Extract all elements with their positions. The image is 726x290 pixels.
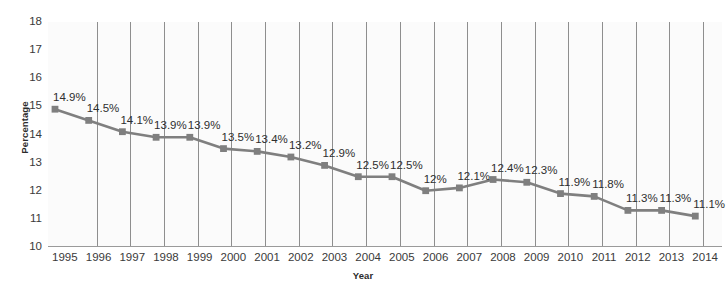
data-point-marker [52, 106, 59, 113]
data-point-marker [85, 117, 92, 124]
data-point-label: 13.9% [188, 120, 221, 132]
data-point-label: 12.4% [491, 163, 524, 175]
data-point-label: 11.3% [626, 193, 658, 205]
data-point-marker [658, 207, 665, 214]
data-point-label: 12.5% [390, 160, 423, 172]
line-chart: Percentage 181716151413121110 14.9%14.5%… [0, 0, 726, 290]
data-point-label: 12.9% [323, 148, 356, 160]
data-point-label: 11.1% [693, 199, 725, 211]
data-point-label: 13.2% [289, 140, 322, 152]
x-axis-title: Year [0, 270, 726, 281]
data-point-label: 14.1% [120, 115, 153, 127]
y-tick-label: 10 [20, 241, 42, 253]
data-point-marker [119, 128, 126, 135]
data-point-marker [422, 187, 429, 194]
data-point-marker [186, 134, 193, 141]
y-tick-label: 17 [20, 44, 42, 56]
y-tick-label: 16 [20, 72, 42, 84]
data-point-marker [557, 190, 564, 197]
y-tick-label: 12 [20, 185, 42, 197]
data-point-marker [692, 213, 699, 220]
y-tick-label: 18 [20, 16, 42, 28]
data-point-label: 12.1% [457, 171, 490, 183]
data-point-label: 11.3% [660, 193, 692, 205]
data-point-label: 13.5% [222, 132, 255, 144]
y-tick-label: 11 [20, 213, 42, 225]
data-point-marker [288, 154, 295, 161]
y-tick-label: 15 [20, 100, 42, 112]
data-point-marker [254, 148, 261, 155]
data-point-marker [321, 162, 328, 169]
y-tick-label: 14 [20, 129, 42, 141]
data-point-label: 13.9% [154, 120, 187, 132]
data-point-marker [456, 185, 463, 192]
data-point-marker [523, 179, 530, 186]
data-point-label: 11.8% [592, 179, 624, 191]
data-point-label: 14.9% [53, 92, 86, 104]
data-point-marker [625, 207, 632, 214]
x-tick-label: 2014 [683, 252, 726, 264]
data-point-marker [153, 134, 160, 141]
data-point-marker [220, 145, 227, 152]
data-point-label: 12.3% [525, 165, 558, 177]
data-point-label: 14.5% [87, 103, 120, 115]
data-point-label: 12.5% [356, 160, 389, 172]
data-point-marker [389, 173, 396, 180]
data-point-label: 13.4% [255, 134, 288, 146]
plot-area [48, 22, 722, 247]
data-point-label: 12% [424, 174, 447, 186]
data-point-marker [591, 193, 598, 200]
data-point-marker [355, 173, 362, 180]
y-tick-label: 13 [20, 157, 42, 169]
series-line [48, 22, 722, 247]
data-point-marker [490, 176, 497, 183]
data-point-label: 11.9% [559, 177, 591, 189]
